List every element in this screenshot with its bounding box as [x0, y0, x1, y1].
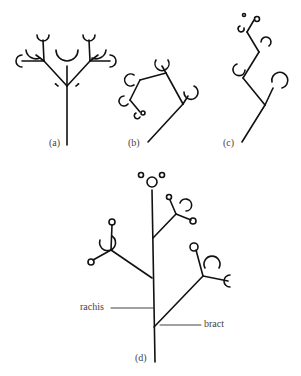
panel-d-figure: [88, 173, 230, 363]
panel-b-figure: [119, 60, 198, 142]
inflorescence-diagram: [0, 0, 301, 376]
panel-c-figure: [233, 14, 288, 143]
panel-a-label: (a): [49, 137, 60, 148]
panel-b-label: (b): [128, 137, 140, 148]
panel-c-label: (c): [223, 137, 234, 148]
panel-a-figure: [16, 35, 116, 145]
bract-label: bract: [204, 318, 224, 329]
rachis-label: rachis: [80, 301, 104, 312]
panel-d-label: (d): [135, 352, 147, 363]
